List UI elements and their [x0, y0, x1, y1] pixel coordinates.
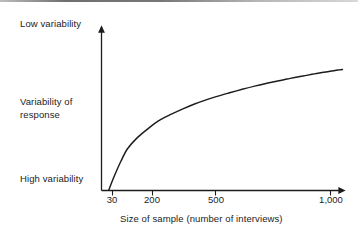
x-tick-label-1000: 1,000	[319, 194, 343, 205]
y-axis-label-variability-of-response: Variability of response	[20, 96, 72, 121]
chart-figure: Low variability Variability of response …	[0, 0, 358, 240]
y-axis-label-line-1: Variability of	[20, 96, 72, 109]
y-axis-label-line-2: response	[20, 109, 72, 122]
x-axis-title: Size of sample (number of interviews)	[120, 213, 283, 226]
x-tick-label-30: 30	[107, 194, 118, 205]
x-tick-label-200: 200	[144, 194, 160, 205]
data-series-curve	[109, 70, 343, 191]
y-axis-label-high-variability: High variability	[20, 173, 83, 186]
y-axis-label-low-variability: Low variability	[20, 18, 81, 31]
x-tick-label-500: 500	[208, 194, 224, 205]
